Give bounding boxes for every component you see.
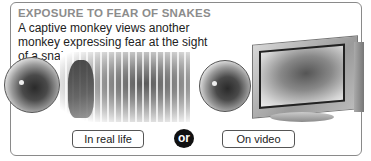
figure-title: EXPOSURE TO FEAR OF SNAKES xyxy=(18,7,211,19)
monkey-eye-icon xyxy=(212,81,217,86)
label-in-real-life: In real life xyxy=(72,130,144,148)
tv-screen-video-scene xyxy=(259,44,345,110)
tv-frame xyxy=(252,35,358,118)
television-illustration xyxy=(252,40,364,124)
label-on-video: On video xyxy=(222,130,295,148)
or-badge: or xyxy=(174,129,194,148)
monkey-eye-icon xyxy=(19,80,24,85)
tv-side-panel xyxy=(354,42,364,112)
tv-stand xyxy=(270,112,334,122)
observer-monkey-left-icon xyxy=(4,57,60,113)
snake-icon xyxy=(68,60,94,118)
observer-monkey-right-icon xyxy=(199,60,251,112)
